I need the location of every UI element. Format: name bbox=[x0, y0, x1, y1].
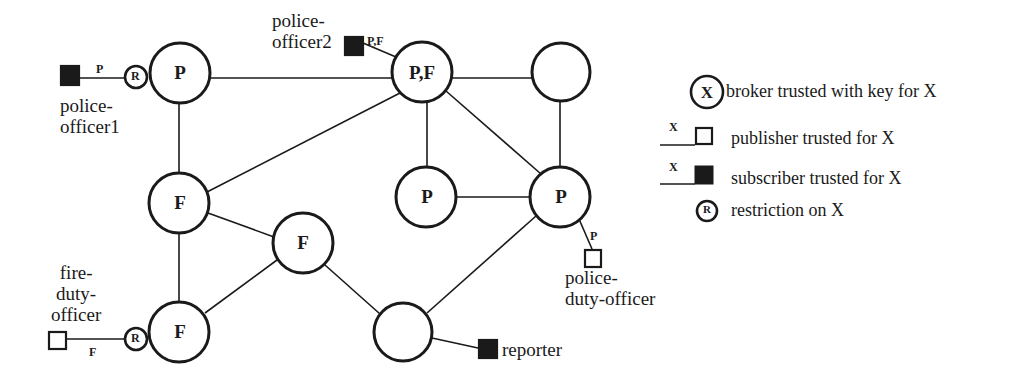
legend-subscriber-symbol: X bbox=[669, 160, 678, 175]
legend-broker-text: broker trusted with key for X bbox=[726, 81, 936, 102]
broker-label-b2: P,F bbox=[409, 62, 435, 84]
broker-network-diagram bbox=[0, 0, 1009, 386]
broker-label-b8: F bbox=[174, 321, 186, 343]
legend-broker-symbol: X bbox=[701, 83, 713, 103]
client-name-reporter: reporter bbox=[502, 339, 562, 360]
legend-shapes bbox=[660, 76, 723, 221]
subscriber-icon-reporter[interactable] bbox=[479, 340, 497, 358]
broker-label-b1: P bbox=[174, 62, 186, 84]
broker-label-b5: P bbox=[421, 186, 433, 208]
legend-publisher-symbol: X bbox=[669, 120, 678, 135]
restriction-label-police-officer1: R bbox=[131, 69, 140, 84]
trust-label-police-duty-officer: P bbox=[590, 229, 597, 244]
restriction-markers bbox=[125, 66, 147, 350]
subscriber-icon-police-officer1[interactable] bbox=[61, 66, 79, 85]
trust-label-fire-duty-officer: F bbox=[89, 345, 96, 360]
legend-restriction-text: restriction on X bbox=[731, 200, 844, 221]
edge-b2-b4 bbox=[207, 93, 400, 192]
edge-b2-b6 bbox=[446, 91, 541, 174]
restriction-label-fire-duty-officer: R bbox=[131, 331, 140, 346]
edge-b4-b7 bbox=[208, 213, 274, 237]
broker-label-b4: F bbox=[174, 192, 186, 214]
legend-publisher-icon bbox=[696, 128, 712, 144]
client-name-fire-duty-officer: fire- duty- officer bbox=[51, 262, 101, 325]
legend-subscriber-text: subscriber trusted for X bbox=[731, 168, 901, 189]
legend-publisher-text: publisher trusted for X bbox=[731, 128, 894, 149]
broker-edges bbox=[179, 78, 560, 314]
edge-b6-b9 bbox=[427, 216, 536, 313]
client-links bbox=[67, 43, 592, 348]
subscriber-icon-police-officer2[interactable] bbox=[345, 37, 363, 55]
publisher-icon-fire-duty-officer[interactable] bbox=[49, 332, 66, 349]
legend-restriction-symbol: R bbox=[703, 203, 711, 215]
broker-label-b6: P bbox=[555, 186, 567, 208]
broker-node-b9[interactable] bbox=[374, 303, 432, 361]
client-name-police-officer2: police- officer2 bbox=[272, 10, 332, 52]
broker-label-b7: F bbox=[297, 232, 309, 254]
trust-label-police-officer2: P,F bbox=[367, 34, 384, 49]
client-name-police-officer1: police- officer1 bbox=[60, 95, 120, 137]
edge-b7-b8 bbox=[205, 260, 277, 313]
broker-node-b3[interactable] bbox=[532, 43, 590, 101]
client-name-police-duty-officer: police- duty-officer bbox=[565, 267, 655, 309]
trust-label-police-officer1: P bbox=[96, 62, 103, 77]
publisher-icon-police-duty-officer[interactable] bbox=[585, 250, 601, 267]
broker-nodes bbox=[149, 42, 590, 362]
edge-b7-b9 bbox=[325, 265, 380, 314]
legend-subscriber-icon bbox=[695, 166, 713, 184]
link-reporter bbox=[432, 338, 478, 348]
